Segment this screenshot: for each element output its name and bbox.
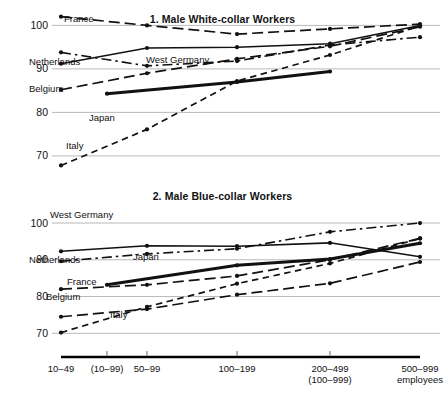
x-tick-label-line1: 50–99 xyxy=(107,363,187,374)
data-point xyxy=(145,23,149,27)
chart-1-plot-area xyxy=(0,0,445,190)
data-point xyxy=(235,274,239,278)
data-point xyxy=(418,255,422,259)
data-point xyxy=(328,53,332,57)
data-point xyxy=(235,293,239,297)
series-label-belgium: Belgium xyxy=(46,292,80,302)
x-tick-label: 100–199 xyxy=(197,363,277,374)
x-tick-label-line2: employees xyxy=(380,374,445,385)
data-point xyxy=(235,45,239,49)
data-point xyxy=(59,15,63,19)
data-point xyxy=(59,50,63,54)
series-label-japan: Japan xyxy=(89,113,115,123)
data-point xyxy=(418,35,422,39)
series-label-west-germany: West Germany xyxy=(146,55,209,65)
series-line-west-germany xyxy=(61,243,420,257)
data-point xyxy=(328,257,332,261)
data-point xyxy=(145,305,149,309)
series-label-france: France xyxy=(67,277,97,287)
data-point xyxy=(235,57,239,61)
chart-2-panel: 708090100 West GermanyNetherlandsJapanFr… xyxy=(0,186,445,407)
x-tick-label-line1: 200–499 xyxy=(290,363,370,374)
data-point xyxy=(235,263,239,267)
data-point xyxy=(328,230,332,234)
series-label-belgium: Belgium xyxy=(29,84,63,94)
data-point xyxy=(235,79,239,83)
series-label-italy: Italy xyxy=(66,141,83,151)
data-point xyxy=(418,236,422,240)
data-point xyxy=(145,46,149,50)
data-point xyxy=(328,69,332,73)
data-point xyxy=(145,71,149,75)
series-label-france: France xyxy=(64,14,94,24)
data-point xyxy=(235,282,239,286)
x-tick-label-line1: 500–999 xyxy=(380,363,445,374)
data-point xyxy=(328,261,332,265)
data-point xyxy=(418,241,422,245)
x-tick-label: 200–499(100–999) xyxy=(290,363,370,385)
x-tick-label: 50–99 xyxy=(107,363,187,374)
data-point xyxy=(328,44,332,48)
data-point xyxy=(59,163,63,167)
data-point xyxy=(418,221,422,225)
series-label-japan: Japan xyxy=(133,252,159,262)
chart-1-panel: 708090100 FranceNetherlandsWest GermanyB… xyxy=(0,0,445,190)
figure-root: 1. Male White-collar Workers 708090100 F… xyxy=(0,0,445,407)
data-point xyxy=(145,127,149,131)
data-point xyxy=(328,241,332,245)
series-line-netherlands xyxy=(61,37,420,66)
data-point xyxy=(59,249,63,253)
data-point xyxy=(418,260,422,264)
series-line-netherlands xyxy=(61,223,420,261)
data-point xyxy=(59,330,63,334)
chart-svg xyxy=(0,0,445,190)
data-point xyxy=(105,92,109,96)
data-point xyxy=(235,247,239,251)
data-point xyxy=(59,315,63,319)
data-point xyxy=(328,281,332,285)
series-label-italy: Italy xyxy=(110,310,127,320)
x-tick-label-line1: 100–199 xyxy=(197,363,277,374)
x-tick-label-line2: (100–999) xyxy=(290,374,370,385)
series-label-netherlands: Netherlands xyxy=(29,57,80,67)
series-label-netherlands: Netherlands xyxy=(29,255,80,265)
data-point xyxy=(235,32,239,36)
series-label-west-germany: West Germany xyxy=(50,210,113,220)
data-point xyxy=(418,24,422,28)
data-point xyxy=(145,283,149,287)
data-point xyxy=(328,27,332,31)
data-point xyxy=(105,283,109,287)
x-tick-label: 500–999employees xyxy=(380,363,445,385)
data-point xyxy=(145,244,149,248)
